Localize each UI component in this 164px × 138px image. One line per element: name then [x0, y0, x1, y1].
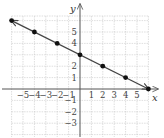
- y-tick-label: 4: [72, 38, 77, 48]
- data-point: [55, 41, 60, 46]
- data-point: [100, 64, 105, 69]
- y-axis-label: y: [69, 3, 76, 14]
- coordinate-plane-chart: xy −5−4−3−2−1123455421−1−2−3: [0, 0, 164, 138]
- data-point: [9, 18, 14, 23]
- x-tick-label: 4: [123, 90, 128, 100]
- y-tick-label: −3: [64, 118, 77, 128]
- y-tick-label: −1: [64, 95, 77, 105]
- data-point: [146, 87, 151, 92]
- x-axis-label: x: [152, 92, 158, 103]
- data-point: [123, 75, 128, 80]
- y-tick-label: 5: [72, 27, 77, 37]
- x-tick-label: 2: [100, 90, 105, 100]
- data-point: [78, 52, 83, 57]
- x-tick-label: 1: [89, 90, 94, 100]
- data-point: [32, 30, 37, 35]
- y-tick-label: 1: [72, 73, 77, 83]
- x-tick-label: 3: [111, 90, 116, 100]
- x-tick-label: 5: [134, 90, 139, 100]
- y-tick-label: −2: [64, 107, 77, 117]
- y-tick-label: 2: [72, 61, 77, 71]
- axes: xy: [2, 3, 158, 137]
